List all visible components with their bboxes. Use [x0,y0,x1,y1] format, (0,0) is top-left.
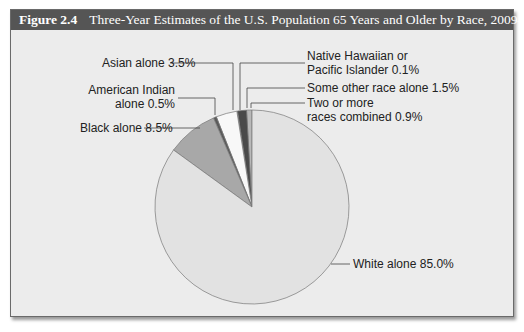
label-two-or-more: Two or more races combined 0.9% [307,96,422,124]
label-nhpi: Native Hawaiian or Pacific Islander 0.1% [307,49,419,77]
label-american-indian: American Indian alone 0.5% [74,83,175,111]
label-two-or-more-line2: races combined 0.9% [307,110,422,124]
pie-chart [0,0,524,332]
label-white: White alone 85.0% [353,257,454,271]
label-some-other: Some other race alone 1.5% [307,81,459,95]
label-two-or-more-line1: Two or more [307,96,422,110]
label-nhpi-line2: Pacific Islander 0.1% [307,63,419,77]
label-asian: Asian alone 3.5% [102,56,195,70]
label-american-indian-line2: alone 0.5% [74,97,175,111]
label-black: Black alone 8.5% [80,121,173,135]
label-nhpi-line1: Native Hawaiian or [307,49,419,63]
label-american-indian-line1: American Indian [74,83,175,97]
